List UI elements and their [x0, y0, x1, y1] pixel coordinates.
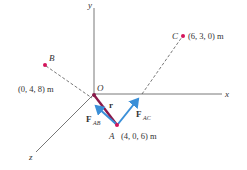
dashed-line-to-c [142, 37, 182, 94]
y-axis-label: y [87, 0, 92, 10]
force-vector-diagram: y x z O B (0, 4, 8) m C (6, 3, 0) m A (4… [0, 0, 247, 170]
point-o [92, 93, 96, 97]
z-axis-label: z [28, 152, 33, 162]
point-c [181, 34, 185, 38]
point-c-coords: (6, 3, 0) m [188, 31, 224, 41]
x-axis-label: x [224, 89, 229, 99]
vector-fab-label: F [86, 114, 92, 124]
point-b-label: B [49, 53, 55, 63]
vector-fac-label: F [136, 109, 142, 119]
vector-fab-subscript: AB [92, 120, 101, 126]
origin-label: O [97, 83, 104, 93]
point-a-coords: (4, 0, 6) m [121, 131, 157, 141]
point-a [115, 123, 119, 127]
point-b-coords: (0, 4, 8) m [18, 84, 54, 94]
point-b [43, 63, 47, 67]
vector-r-label: r [109, 100, 113, 110]
vector-fac-subscript: AC [142, 115, 152, 121]
point-c-label: C [172, 31, 179, 41]
point-a-label: A [108, 131, 115, 141]
force-vector-fac [118, 99, 138, 124]
